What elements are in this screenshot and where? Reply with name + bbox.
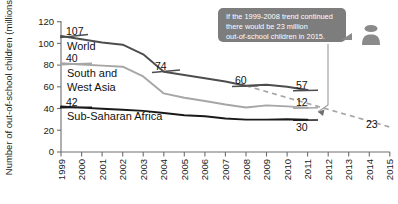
y-tick-label-40: 40 [43, 103, 54, 114]
value-label-23: 23 [366, 118, 378, 130]
x-tick-label-2014: 2014 [364, 159, 375, 180]
y-axis-title: Number of out-of-school children (millio… [3, 0, 14, 175]
x-tick-label-1999: 1999 [56, 159, 67, 180]
x-tick-label-2009: 2009 [261, 159, 272, 180]
value-label-74: 74 [155, 60, 167, 72]
value-label-107: 107 [66, 25, 84, 37]
x-tick-label-2000: 2000 [76, 159, 87, 180]
x-tick-label-2013: 2013 [343, 159, 354, 180]
series-label-sub-saharan-africa: Sub-Saharan Africa [67, 110, 163, 122]
y-tick-label-0: 0 [49, 146, 54, 157]
x-tick-label-2004: 2004 [158, 159, 169, 180]
callout-annotation: If the 1999-2008 trend continued there w… [218, 8, 346, 42]
x-tick-label-2002: 2002 [117, 159, 128, 180]
callout-leader [318, 44, 328, 116]
person-icon [341, 25, 380, 45]
value-label-12: 12 [296, 96, 308, 108]
value-label-57: 57 [296, 79, 308, 91]
x-tick-label-2001: 2001 [97, 159, 108, 180]
value-label-40: 40 [66, 52, 78, 64]
y-tick-label-120: 120 [38, 16, 54, 27]
y-axis-title-line1: Number of out-of-school children (millio… [3, 0, 14, 175]
x-tick-label-2015: 2015 [384, 159, 395, 180]
y-axis-ticks: 120 100 80 60 40 20 0 [38, 16, 61, 157]
leader-line-path [318, 44, 328, 112]
x-tick-label-2006: 2006 [199, 159, 210, 180]
line-chart: Number of out-of-school children (millio… [0, 0, 398, 204]
y-tick-label-60: 60 [43, 81, 54, 92]
x-axis-ticks: 1999 2000 2001 2002 2003 2004 2005 2006 … [56, 152, 396, 180]
chart-container: Number of out-of-school children (millio… [0, 0, 398, 204]
x-tick-label-2008: 2008 [241, 159, 252, 180]
callout-text-line3: out-of-school children in 2015. [226, 32, 325, 41]
x-tick-label-2010: 2010 [282, 159, 293, 180]
callout-text-line1: If the 1999-2008 trend continued [226, 12, 333, 21]
value-label-42: 42 [66, 96, 78, 108]
x-tick-label-2003: 2003 [138, 159, 149, 180]
y-tick-label-100: 100 [38, 38, 54, 49]
series-label-south-west-asia-line1: South and [67, 67, 117, 79]
value-label-60: 60 [235, 74, 247, 86]
callout-text-line2: there would be 23 million [226, 22, 308, 31]
series-label-world: World [67, 40, 96, 52]
x-tick-label-2005: 2005 [179, 159, 190, 180]
y-tick-label-20: 20 [43, 125, 54, 136]
leader-arrowhead-icon [318, 110, 325, 117]
x-tick-label-2011: 2011 [302, 159, 313, 179]
x-tick-label-2007: 2007 [220, 159, 231, 180]
series-label-south-west-asia-line2: West Asia [67, 81, 117, 93]
value-label-30: 30 [296, 121, 308, 133]
x-tick-label-2012: 2012 [323, 159, 334, 180]
y-tick-label-80: 80 [43, 59, 54, 70]
